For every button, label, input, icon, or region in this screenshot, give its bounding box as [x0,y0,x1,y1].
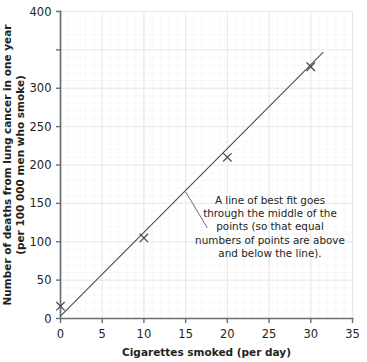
y-tick-label: 300 [30,81,52,95]
x-tick-label: 10 [137,327,152,341]
x-tick-label: 35 [345,327,360,341]
y-tick-label: 250 [30,120,52,134]
x-tick-label: 5 [99,327,106,341]
annotation-line: points (so that equal [216,220,324,232]
y-tick-label: 0 [44,312,51,326]
scatter-chart: 05010015020025030040005101520253035 A li… [0,0,367,362]
x-tick-label: 20 [220,327,235,341]
y-axis-title-line1: Number of deaths from lung cancer in one… [1,24,13,306]
x-tick-label: 15 [178,327,193,341]
annotation-line: numbers of points are above [195,234,345,246]
annotation-line: through the middle of the [203,207,337,219]
trendline [61,52,324,316]
y-tick-label: 50 [37,273,52,287]
axis-titles: Cigarettes smoked (per day)Number of dea… [1,24,291,358]
x-tick-label: 25 [262,327,277,341]
y-tick-label: 400 [30,5,52,19]
y-tick-label: 100 [30,235,52,249]
x-tick-label: 0 [57,327,64,341]
y-tick-label: 200 [30,158,52,172]
line-of-best-fit [61,52,324,316]
annotation-line: and below the line). [218,247,321,259]
annotation-text: A line of best fit goesthrough the middl… [195,194,345,259]
y-axis-title-line2: (per 100 000 men who smoke) [14,75,26,255]
x-axis-title: Cigarettes smoked (per day) [122,346,291,358]
x-tick-label: 30 [303,327,318,341]
chart-canvas: 05010015020025030040005101520253035 A li… [0,0,367,362]
y-tick-label: 150 [30,196,52,210]
annotation-line: A line of best fit goes [215,194,325,206]
